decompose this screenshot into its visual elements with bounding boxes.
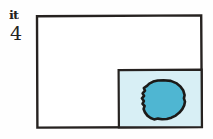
shaded-blob-outline [142, 80, 185, 119]
figure-canvas: it 4 [0, 0, 213, 139]
diagram-svg [0, 0, 213, 139]
